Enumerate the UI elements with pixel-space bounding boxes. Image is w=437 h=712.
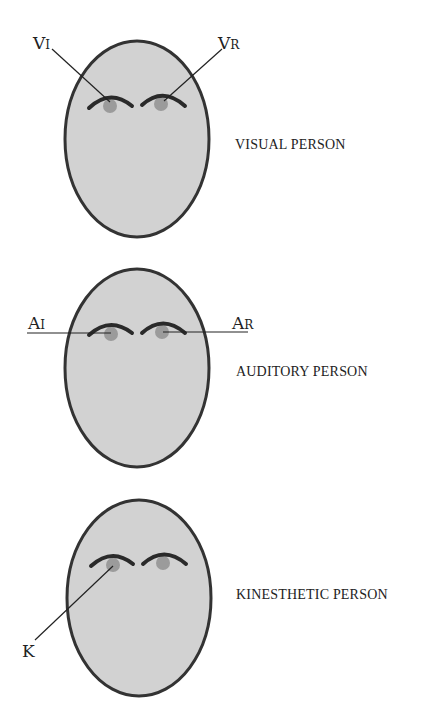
face-outline xyxy=(65,269,209,467)
left-pupil xyxy=(104,327,118,341)
auditory-face: AI AR xyxy=(27,269,254,467)
label-visual-right: VR xyxy=(217,33,240,53)
kinesthetic-person-caption: KINESTHETIC PERSON xyxy=(236,587,388,603)
face-outline xyxy=(67,500,211,696)
kinesthetic-face: K xyxy=(22,500,211,696)
label-auditory-left: AI xyxy=(27,313,45,333)
face-outline xyxy=(65,41,209,237)
auditory-person-caption: AUDITORY PERSON xyxy=(236,364,368,380)
label-kinesthetic: K xyxy=(22,641,35,661)
visual-face: VI VR xyxy=(32,33,240,237)
visual-person-caption: VISUAL PERSON xyxy=(235,137,346,153)
label-visual-left: VI xyxy=(32,33,50,53)
label-auditory-right: AR xyxy=(231,313,254,333)
right-pupil xyxy=(156,556,170,570)
left-pupil xyxy=(103,99,117,113)
eye-accessing-diagram: VI VR AI AR K xyxy=(0,0,437,712)
